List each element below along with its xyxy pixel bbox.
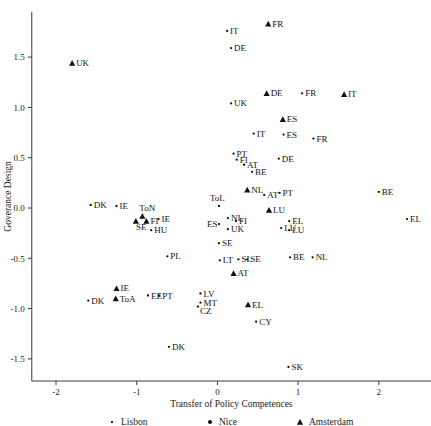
lisbon-marker [255, 321, 257, 323]
data-point: BE [378, 187, 394, 197]
data-point: DK [87, 296, 105, 306]
data-point-label: IE [120, 201, 129, 211]
lisbon-marker [282, 133, 284, 135]
data-point: BE [289, 252, 305, 262]
data-point: LU [266, 205, 286, 215]
lisbon-marker [236, 159, 238, 161]
data-point-label: NL [316, 252, 328, 262]
data-point: FR [301, 88, 316, 98]
amsterdam-marker [230, 270, 236, 276]
data-point-label: DE [282, 154, 294, 164]
data-point: PL [166, 251, 181, 261]
data-point: DK [90, 200, 108, 210]
axes-group [32, 12, 431, 381]
axis-titles-group: Transfer of Policy CompetencesGoverance … [3, 161, 293, 409]
lisbon-marker [227, 228, 229, 230]
data-point-label: CZ [200, 306, 212, 316]
amsterdam-marker [69, 60, 75, 66]
plot-area: -2-1012 -1.5-1.0-0.50.00.51.01.5 ITDEUKF… [0, 0, 431, 426]
data-point-label: DE [271, 88, 283, 98]
x-tick-label: 0 [215, 387, 220, 397]
data-point-label: DK [94, 200, 107, 210]
lisbon-marker [378, 191, 380, 193]
data-point-label: PT [162, 291, 173, 301]
data-point-label: BE [255, 167, 267, 177]
data-point: IE [113, 283, 129, 293]
data-point: NL [244, 185, 263, 195]
data-point: UK [230, 98, 248, 108]
x-tick-label: -2 [52, 387, 60, 397]
legend-label[interactable]: Nice [219, 417, 237, 426]
data-point: ToL [210, 193, 225, 207]
amsterdam-marker [341, 91, 347, 97]
lisbon-marker [218, 242, 220, 244]
y-tick-label: -1.0 [11, 304, 26, 314]
lisbon-marker [115, 205, 117, 207]
legend-label[interactable]: Lisbon [121, 417, 148, 426]
data-point-label: ES [207, 219, 218, 229]
data-point-label: DE [234, 43, 246, 53]
data-point: CZ [197, 305, 212, 315]
data-point: PT [278, 188, 293, 198]
lisbon-marker [251, 171, 253, 173]
data-point: IT [253, 129, 266, 139]
data-point-label: AT [238, 268, 250, 278]
lisbon-marker [278, 192, 280, 194]
y-tick-group: -1.5-1.0-0.50.00.51.01.5 [11, 52, 32, 364]
lisbon-marker [199, 301, 201, 303]
data-point-label: NL [251, 185, 263, 195]
lisbon-marker [243, 164, 245, 166]
lisbon-marker [158, 294, 160, 296]
amsterdam-marker [113, 285, 119, 291]
data-point: FR [265, 19, 283, 29]
x-tick-label: -1 [133, 387, 141, 397]
lisbon-marker [288, 229, 290, 231]
data-point: DE [264, 88, 284, 98]
data-point-label: AT [267, 190, 279, 200]
lisbon-marker [226, 30, 228, 32]
lisbon-marker [287, 366, 289, 368]
data-point: UK [69, 58, 90, 68]
lisbon-marker [253, 132, 255, 134]
lisbon-marker [166, 255, 168, 257]
data-point: LT [219, 255, 234, 265]
scatter-chart: -2-1012 -1.5-1.0-0.50.00.51.01.5 ITDEUKF… [0, 0, 431, 426]
data-point-label: CY [259, 317, 272, 327]
data-point-label: BE [293, 252, 305, 262]
legend-amsterdam-icon [297, 419, 303, 425]
lisbon-marker [218, 223, 220, 225]
data-point-label: SE [222, 238, 233, 248]
lisbon-marker [406, 218, 408, 220]
lisbon-marker [237, 258, 239, 260]
amsterdam-marker [139, 213, 145, 219]
lisbon-marker [197, 305, 199, 307]
data-point: SK [287, 362, 303, 372]
data-point: NL [311, 252, 327, 262]
x-tick-label: 1 [296, 387, 301, 397]
legend-nice-icon [208, 420, 212, 424]
data-point-label: FR [272, 19, 283, 29]
y-axis-title: Goverance Design [3, 161, 13, 232]
data-point: EL [406, 214, 421, 224]
data-point: IE [157, 214, 170, 224]
lisbon-marker [227, 217, 229, 219]
data-point-label: LT [223, 255, 234, 265]
x-axis-title: Transfer of Policy Competences [170, 399, 293, 409]
lisbon-marker [289, 256, 291, 258]
y-tick-label: 0.5 [14, 153, 26, 163]
amsterdam-marker [113, 295, 119, 301]
data-point-label: SE [136, 222, 147, 232]
y-tick-label: 1.0 [14, 103, 26, 113]
legend-label[interactable]: Amsterdam [309, 417, 354, 426]
data-points-group: ITDEUKFRITESFRPTFIATDEBEBEATPTDKIEToLELI… [69, 19, 421, 372]
lisbon-marker [230, 47, 232, 49]
data-point-label: UK [231, 224, 244, 234]
data-point-label: ToN [139, 203, 155, 213]
lisbon-marker [219, 259, 221, 261]
data-point: IT [341, 89, 357, 99]
amsterdam-marker [245, 301, 251, 307]
lisbon-marker [288, 220, 290, 222]
data-point-label: UK [234, 98, 247, 108]
data-point: DE [230, 43, 247, 53]
data-point-label: FR [316, 134, 327, 144]
